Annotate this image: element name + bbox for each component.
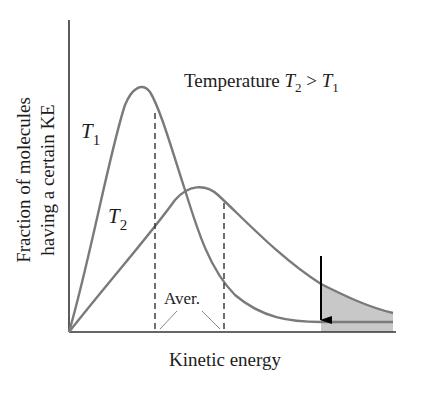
kinetic-energy-distribution-diagram: Temperature T2 > T1 T1 T2 Aver. Kinetic … <box>0 0 423 396</box>
label-t2: T2 <box>108 204 127 233</box>
x-axis-label: Kinetic energy <box>169 349 282 370</box>
chart-title: Temperature T2 > T1 <box>184 70 339 95</box>
y-axis-label-line1: Fraction of molecules <box>13 97 34 263</box>
y-axis-label-line2: having a certain KE <box>37 104 58 255</box>
aver-pointer-left <box>160 311 177 329</box>
label-t1: T1 <box>81 119 100 148</box>
shaded-high-energy-region <box>321 284 393 332</box>
average-annotation: Aver. <box>164 289 200 308</box>
aver-pointer-right <box>202 311 220 329</box>
